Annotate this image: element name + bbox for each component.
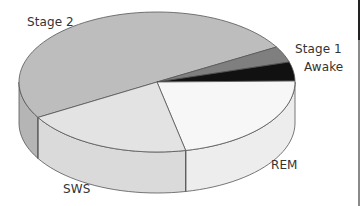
pie-chart [0,0,361,206]
label-rem: REM [271,158,298,172]
label-awake: Awake [304,60,343,74]
pie-top [19,12,295,152]
label-stage-2: Stage 2 [27,15,74,29]
label-stage-1: Stage 1 [295,42,342,56]
panel-divider-accent [358,0,360,40]
label-sws: SWS [63,182,90,196]
